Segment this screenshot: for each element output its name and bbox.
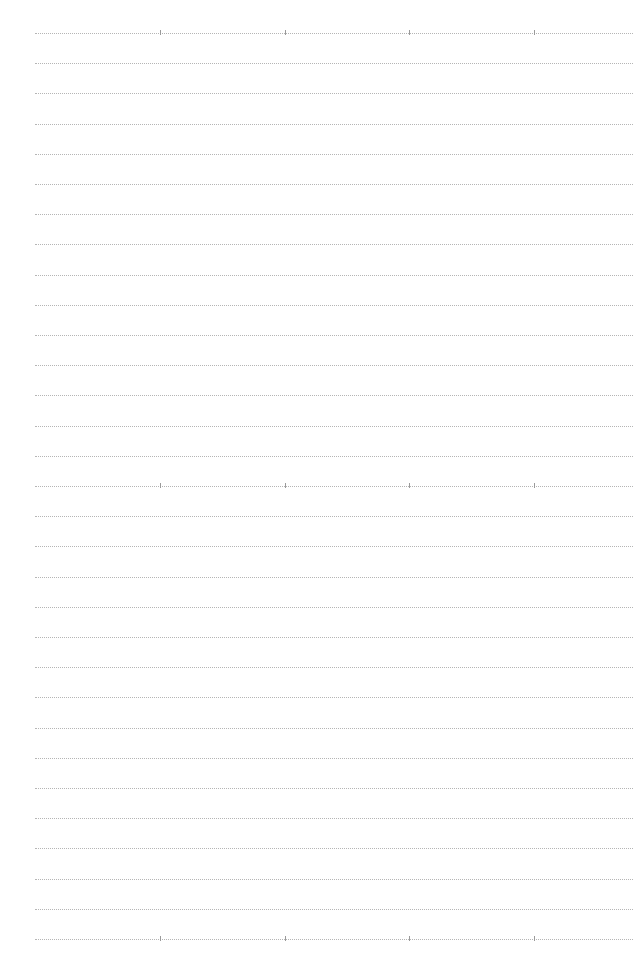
tick-mark [409, 483, 410, 488]
ruled-line [35, 637, 633, 638]
ruled-line [35, 214, 633, 215]
ruled-line [35, 365, 633, 366]
ruled-line [35, 758, 633, 759]
ruled-line [35, 697, 633, 698]
ruled-line [35, 788, 633, 789]
ruled-line [35, 546, 633, 547]
tick-mark [534, 936, 535, 941]
ruled-line [35, 305, 633, 306]
ruled-line [35, 426, 633, 427]
tick-mark [160, 30, 161, 35]
tick-mark [285, 483, 286, 488]
tick-mark [409, 30, 410, 35]
ruled-line [35, 486, 633, 487]
ruled-line [35, 184, 633, 185]
ruled-line [35, 577, 633, 578]
tick-mark [534, 30, 535, 35]
tick-mark [534, 483, 535, 488]
ruled-line [35, 33, 633, 34]
ruled-line [35, 818, 633, 819]
ruled-line [35, 335, 633, 336]
ruled-line [35, 848, 633, 849]
ruled-line [35, 728, 633, 729]
ruled-line [35, 275, 633, 276]
tick-mark [285, 30, 286, 35]
ruled-line [35, 516, 633, 517]
tick-mark [160, 483, 161, 488]
tick-mark [160, 936, 161, 941]
tick-mark [285, 936, 286, 941]
ruled-line [35, 395, 633, 396]
ruled-line [35, 607, 633, 608]
ruled-line [35, 909, 633, 910]
ruled-line [35, 93, 633, 94]
ruled-line [35, 244, 633, 245]
ruled-line [35, 456, 633, 457]
ruled-line [35, 879, 633, 880]
ruled-line [35, 939, 633, 940]
tick-mark [409, 936, 410, 941]
ruled-line [35, 63, 633, 64]
ruled-line [35, 154, 633, 155]
ruled-line [35, 667, 633, 668]
ruled-line [35, 124, 633, 125]
lined-paper-page [0, 0, 633, 973]
